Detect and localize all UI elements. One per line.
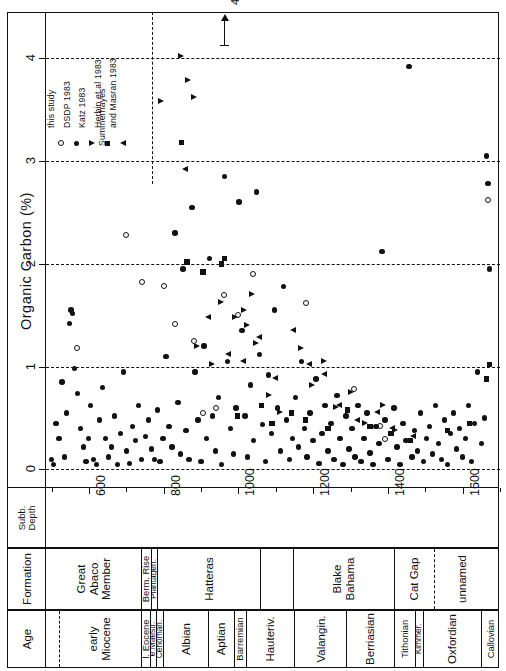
data-point: [354, 417, 360, 423]
data-point: [325, 426, 330, 431]
depth-tick-label-1200: 1200: [318, 468, 332, 496]
data-point: [163, 354, 168, 359]
data-point: [205, 314, 211, 320]
data-point: [358, 459, 363, 464]
age-label: Aptian: [215, 623, 228, 656]
y-tick-0: [39, 469, 46, 470]
age-cell: Valangin.: [295, 611, 347, 667]
data-point: [191, 94, 197, 100]
data-point: [439, 457, 444, 462]
data-point: [487, 362, 492, 367]
data-point: [304, 454, 309, 459]
data-point: [256, 334, 262, 340]
data-point: [118, 431, 123, 436]
legend: this studyDSDP 1983Katz 1983Herbin et al…: [56, 22, 134, 148]
vertical-divider: [152, 12, 153, 184]
data-point: [64, 410, 69, 415]
data-point: [373, 424, 378, 429]
age-row: Age early Miocenel. Eocenee Maestr.Cenom…: [7, 610, 499, 668]
data-point: [198, 459, 203, 464]
age-label: Valangin.: [314, 615, 327, 662]
y-axis-title: Organic Carbon (%): [18, 192, 34, 330]
legend-symbol-wrap: [120, 140, 126, 146]
data-point: [219, 261, 224, 266]
data-point: [337, 436, 342, 441]
data-point: [235, 413, 240, 418]
data-point: [232, 314, 238, 320]
formation-cell: [261, 549, 294, 609]
data-point: [382, 436, 388, 442]
data-point: [204, 436, 209, 441]
data-point: [361, 436, 366, 441]
legend-label: Katz 1983: [77, 87, 87, 128]
data-point: [385, 457, 390, 462]
data-point: [201, 343, 206, 348]
data-point: [269, 421, 274, 426]
data-point: [487, 266, 492, 271]
data-point: [115, 462, 120, 467]
data-point: [192, 369, 197, 374]
data-point: [325, 448, 330, 453]
data-point: [172, 230, 177, 235]
data-point: [239, 328, 244, 333]
y-tick-label-4: 4: [24, 50, 37, 66]
data-point: [391, 405, 396, 410]
data-point: [222, 256, 227, 261]
data-point: [225, 351, 231, 357]
depth-minor-tick: [351, 488, 352, 492]
data-point: [219, 462, 224, 467]
data-point: [72, 366, 77, 371]
data-point: [248, 382, 253, 387]
data-point: [263, 459, 268, 464]
data-point: [213, 448, 218, 453]
age-label: Albian: [179, 623, 192, 655]
data-point: [321, 358, 327, 364]
data-point: [445, 428, 450, 433]
data-point: [222, 174, 227, 179]
data-point: [257, 352, 262, 357]
legend-label-continued: Summerhayes: [97, 88, 107, 146]
data-point: [303, 417, 308, 422]
depth-minor-tick: [500, 488, 501, 492]
y-tick-2: [39, 264, 46, 265]
data-point: [380, 402, 386, 408]
data-point: [209, 361, 215, 367]
data-point: [100, 385, 105, 390]
data-point: [424, 436, 429, 441]
data-point: [266, 372, 271, 377]
age-cell: Callovian: [482, 611, 500, 667]
data-point: [221, 292, 227, 298]
age-label: Berriasian: [364, 613, 377, 665]
data-point: [121, 369, 126, 374]
data-point: [454, 446, 459, 451]
data-point: [112, 413, 117, 418]
legend-symbol-triangle-left-icon: [120, 140, 126, 146]
data-point: [409, 454, 414, 459]
data-point: [266, 392, 272, 398]
data-point: [374, 409, 380, 415]
data-point: [379, 249, 384, 254]
data-point: [194, 343, 200, 349]
data-point: [410, 433, 416, 439]
legend-symbol-triangle-right-icon: [89, 140, 95, 146]
age-cell: [46, 611, 60, 667]
y-tick-label-1: 1: [24, 358, 37, 374]
data-point: [70, 311, 75, 316]
data-point: [123, 232, 129, 238]
annotation-label: 4.6: [229, 0, 241, 5]
depth-header-cell: Subb. Depth: [8, 488, 46, 547]
data-point: [75, 391, 80, 396]
data-point: [406, 64, 411, 69]
formation-label: Cat Gap: [408, 558, 421, 601]
formation-label: Hatteras: [202, 557, 215, 600]
formation-header-cell: Formation: [8, 549, 46, 609]
data-point: [158, 98, 164, 104]
data-point: [421, 459, 426, 464]
data-point: [306, 361, 312, 367]
data-point: [169, 444, 174, 449]
data-point: [136, 403, 141, 408]
data-point: [228, 426, 233, 431]
y-tick-4: [39, 58, 46, 59]
data-point: [485, 181, 490, 186]
data-point: [56, 436, 61, 441]
